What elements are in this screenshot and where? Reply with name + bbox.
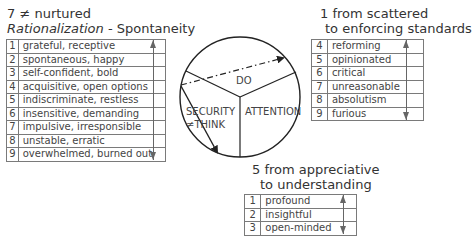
segment-label-attention: ATTENTION bbox=[245, 106, 301, 117]
divider-line bbox=[186, 71, 240, 97]
segment-label-think: ≠THINK bbox=[186, 119, 225, 130]
segment-label-security: SECURITY bbox=[186, 106, 236, 117]
dash-dot-arrow bbox=[181, 58, 283, 85]
segment-label-do: DO bbox=[236, 75, 252, 86]
